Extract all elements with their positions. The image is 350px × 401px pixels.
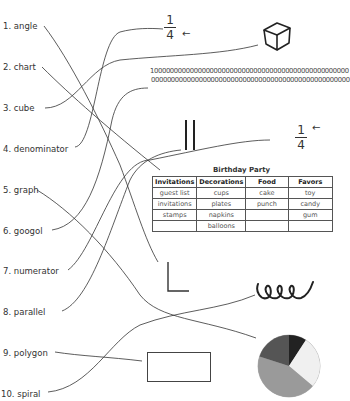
pie-chart	[256, 333, 322, 399]
term-denominator: 4. denominator	[3, 144, 68, 154]
table-row: stamps napkins gum	[153, 210, 333, 221]
term-chart: 2. chart	[3, 62, 36, 72]
table-cell	[246, 210, 288, 221]
table-header: Favors	[288, 177, 333, 188]
fraction-top-numerator: 1	[164, 14, 176, 28]
angle-icon	[165, 260, 191, 294]
table-row: guest list cups cake toy	[153, 188, 333, 199]
table-cell: punch	[246, 199, 288, 210]
table-header: Decorations	[197, 177, 246, 188]
term-graph: 5. graph	[3, 185, 39, 195]
table-cell: plates	[197, 199, 246, 210]
table-cell	[246, 221, 288, 232]
term-polygon: 9. polygon	[3, 348, 48, 358]
term-numerator: 7. numerator	[3, 266, 59, 276]
table-cell	[153, 221, 197, 232]
table-header: Food	[246, 177, 288, 188]
table-cell: napkins	[197, 210, 246, 221]
googol-number: 1000000000000000000000000000000000000000…	[150, 67, 350, 85]
table-header-row: Invitations Decorations Food Favors	[153, 177, 333, 188]
rectangle-polygon	[147, 352, 211, 382]
term-googol: 6. googol	[3, 226, 43, 236]
spiral-icon	[255, 278, 327, 306]
term-spiral: 10. spiral	[1, 389, 40, 399]
parallel-lines	[184, 120, 196, 150]
googol-line-2: 0000000000000000000000000000000000000000…	[150, 76, 350, 85]
cube-icon	[260, 20, 294, 52]
arrow-left-icon: ←	[182, 28, 190, 39]
birthday-party-table: Invitations Decorations Food Favors gues…	[152, 176, 333, 232]
fraction-right-denominator: 4	[295, 138, 307, 151]
table-cell	[288, 221, 333, 232]
table-cell: stamps	[153, 210, 197, 221]
table-cell: gum	[288, 210, 333, 221]
term-angle: 1. angle	[3, 21, 37, 31]
arrow-left-icon: ←	[312, 122, 320, 133]
googol-line-1: 1000000000000000000000000000000000000000…	[150, 67, 350, 76]
fraction-right-numerator: 1	[295, 124, 307, 138]
table-cell: cake	[246, 188, 288, 199]
term-cube: 3. cube	[3, 103, 35, 113]
table-cell: balloons	[197, 221, 246, 232]
table-row: balloons	[153, 221, 333, 232]
table-row: invitations plates punch candy	[153, 199, 333, 210]
fraction-right: 1 4	[295, 124, 307, 151]
table-cell: toy	[288, 188, 333, 199]
table-cell: candy	[288, 199, 333, 210]
table-header: Invitations	[153, 177, 197, 188]
fraction-top: 1 4	[164, 14, 176, 41]
table-cell: cups	[197, 188, 246, 199]
fraction-top-denominator: 4	[164, 28, 176, 41]
term-parallel: 8. parallel	[3, 307, 45, 317]
table-cell: guest list	[153, 188, 197, 199]
table-title: Birthday Party	[213, 166, 270, 174]
table-cell: invitations	[153, 199, 197, 210]
